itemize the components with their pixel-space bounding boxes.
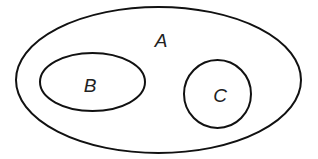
set-a: A	[16, 7, 301, 153]
venn-diagram: A B C	[0, 0, 318, 159]
set-c-label: C	[213, 85, 227, 106]
set-a-label: A	[154, 30, 168, 51]
set-b: B	[40, 53, 145, 111]
set-b-label: B	[84, 75, 97, 96]
set-c: C	[184, 60, 251, 128]
